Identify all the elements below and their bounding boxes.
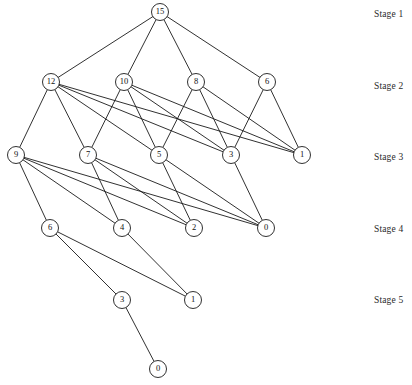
graph-edge-6-to-1 bbox=[271, 90, 299, 148]
graph-edge-8-to-3 bbox=[200, 90, 228, 148]
graph-edge-15-to-12 bbox=[58, 17, 153, 78]
node-circle[interactable] bbox=[116, 74, 133, 91]
graph-edge-12-to-9 bbox=[20, 90, 48, 148]
edges-layer bbox=[20, 17, 299, 362]
node-circle[interactable] bbox=[43, 74, 60, 91]
graph-edge-6-to-3 bbox=[235, 90, 263, 148]
graph-edge-4-to-1 bbox=[128, 234, 187, 294]
node-circle[interactable] bbox=[223, 147, 240, 164]
graph-edge-7-to-4 bbox=[92, 163, 119, 221]
graph-svg: 15121086975316420310 bbox=[0, 0, 412, 385]
graph-node[interactable]: 3 bbox=[114, 292, 131, 309]
graph-edge-3-to-0 bbox=[126, 308, 154, 362]
node-circle[interactable] bbox=[8, 147, 25, 164]
graph-node[interactable]: 12 bbox=[43, 74, 60, 91]
graph-edge-3-to-0 bbox=[235, 163, 263, 221]
node-circle[interactable] bbox=[80, 147, 97, 164]
graph-edge-6-to-1 bbox=[58, 232, 186, 296]
graph-edge-15-to-6 bbox=[167, 17, 260, 78]
graph-edge-15-to-8 bbox=[164, 20, 192, 75]
graph-node[interactable]: 9 bbox=[8, 147, 25, 164]
graph-edge-5-to-2 bbox=[163, 163, 191, 221]
node-circle[interactable] bbox=[258, 220, 275, 237]
graph-node[interactable]: 7 bbox=[80, 147, 97, 164]
node-circle[interactable] bbox=[259, 74, 276, 91]
stage-label-3: Stage 3 bbox=[374, 152, 403, 162]
node-circle[interactable] bbox=[185, 292, 202, 309]
node-circle[interactable] bbox=[151, 147, 168, 164]
stage-label-2: Stage 2 bbox=[374, 81, 403, 91]
graph-node[interactable]: 3 bbox=[223, 147, 240, 164]
graph-edge-7-to-2 bbox=[95, 160, 187, 223]
graph-node[interactable]: 4 bbox=[114, 220, 131, 237]
graph-edge-15-to-10 bbox=[128, 20, 156, 75]
node-circle[interactable] bbox=[114, 292, 131, 309]
diagram-canvas: 15121086975316420310 Stage 1Stage 2Stage… bbox=[0, 0, 412, 385]
stage-label-5: Stage 5 bbox=[374, 295, 403, 305]
graph-node[interactable]: 6 bbox=[42, 220, 59, 237]
node-circle[interactable] bbox=[42, 220, 59, 237]
graph-edge-10-to-5 bbox=[128, 90, 156, 148]
graph-edge-8-to-5 bbox=[163, 90, 192, 148]
graph-edge-12-to-7 bbox=[55, 90, 84, 148]
node-circle[interactable] bbox=[152, 4, 169, 21]
graph-node[interactable]: 5 bbox=[151, 147, 168, 164]
graph-node[interactable]: 15 bbox=[152, 4, 169, 21]
graph-edge-7-to-0 bbox=[96, 158, 258, 225]
graph-edge-9-to-4 bbox=[23, 160, 115, 223]
graph-edge-10-to-1 bbox=[132, 85, 294, 152]
graph-node[interactable]: 1 bbox=[185, 292, 202, 309]
graph-edge-9-to-6 bbox=[20, 163, 47, 221]
node-circle[interactable] bbox=[188, 74, 205, 91]
node-circle[interactable] bbox=[186, 220, 203, 237]
graph-edge-6-to-3 bbox=[56, 234, 116, 294]
stage-label-4: Stage 4 bbox=[374, 224, 403, 234]
graph-edge-12-to-3 bbox=[59, 85, 223, 152]
node-circle[interactable] bbox=[114, 220, 131, 237]
stage-label-1: Stage 1 bbox=[374, 9, 403, 19]
graph-node[interactable]: 8 bbox=[188, 74, 205, 91]
graph-edge-12-to-5 bbox=[58, 87, 152, 150]
graph-node[interactable]: 10 bbox=[116, 74, 133, 91]
graph-node[interactable]: 2 bbox=[186, 220, 203, 237]
graph-edge-5-to-0 bbox=[166, 160, 259, 223]
node-circle[interactable] bbox=[150, 361, 167, 378]
graph-node[interactable]: 1 bbox=[294, 147, 311, 164]
graph-node[interactable]: 6 bbox=[259, 74, 276, 91]
graph-node[interactable]: 0 bbox=[150, 361, 167, 378]
graph-node[interactable]: 0 bbox=[258, 220, 275, 237]
node-circle[interactable] bbox=[294, 147, 311, 164]
nodes-layer: 15121086975316420310 bbox=[8, 4, 311, 378]
